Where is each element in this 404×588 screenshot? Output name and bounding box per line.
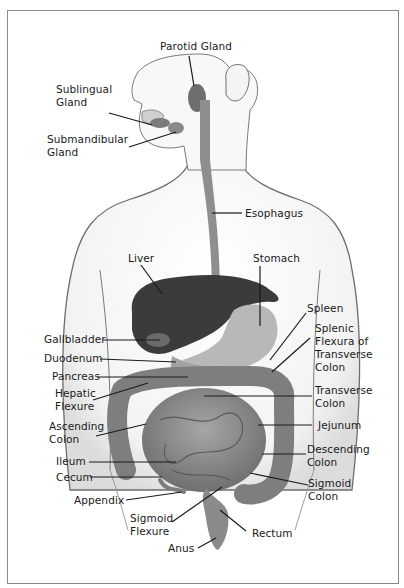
head <box>132 54 258 170</box>
label-pancreas: Pancreas <box>52 370 100 383</box>
label-descending-colon: Descending Colon <box>307 443 370 469</box>
label-jejunum: Jejunum <box>318 419 361 432</box>
label-ascending-colon: Ascending Colon <box>49 420 104 446</box>
label-hepatic-flexure: Hepatic Flexure <box>55 387 96 413</box>
label-spleen: Spleen <box>307 302 343 315</box>
label-liver: Liver <box>128 252 154 265</box>
label-transverse-colon: Transverse Colon <box>315 384 373 410</box>
label-duodenum: Duodenum <box>44 352 103 365</box>
label-parotid-gland: Parotid Gland <box>160 40 232 53</box>
label-stomach: Stomach <box>253 252 300 265</box>
label-cecum: Cecum <box>56 471 93 484</box>
label-appendix: Appendix <box>74 494 124 507</box>
label-ileum: Ileum <box>56 455 86 468</box>
label-gallbladder: Gallbladder <box>44 333 106 346</box>
label-sigmoid-flexure: Sigmoid Flexure <box>130 512 173 538</box>
label-sigmoid-colon: Sigmoid Colon <box>308 477 351 503</box>
label-sublingual-gland: Sublingual Gland <box>56 83 112 109</box>
label-esophagus: Esophagus <box>245 207 303 220</box>
label-submandibular-gland: Submandibular Gland <box>47 133 128 159</box>
label-anus: Anus <box>168 542 194 555</box>
label-rectum: Rectum <box>252 527 293 540</box>
label-splenic-flexura: Splenic Flexura of Transverse Colon <box>315 322 373 374</box>
